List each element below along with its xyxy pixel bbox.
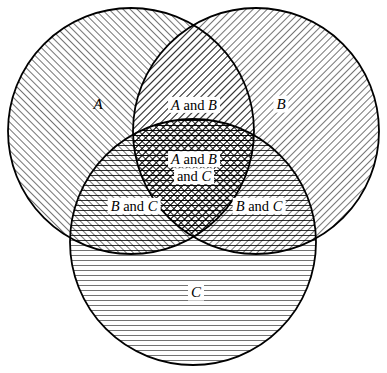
region-a-label: A (93, 96, 102, 113)
region-a-and-c-label: B and C (108, 198, 161, 214)
region-a-and-b-label: A and B (168, 97, 220, 113)
region-c-label: C (188, 284, 204, 301)
triple-label-line-2: and C (174, 169, 214, 185)
triple-label-line-1: A and B (168, 151, 220, 167)
region-b-and-c-label: B and C (233, 198, 286, 214)
region-b-label: B (273, 96, 288, 113)
venn-diagram-canvas (0, 0, 387, 373)
venn-diagram-figure: ABCA and BB and CB and C A and B and C (0, 0, 387, 373)
region-a-and-b-and-c-label: A and B and C (168, 151, 220, 184)
